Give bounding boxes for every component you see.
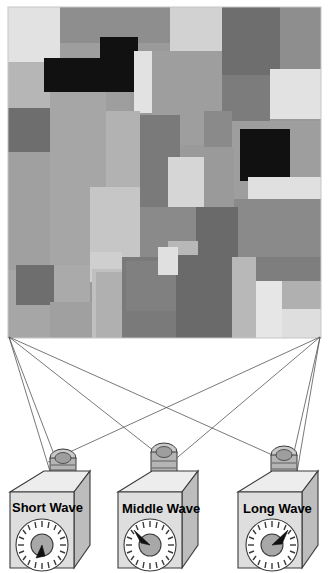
dial-middle-wave[interactable] bbox=[124, 519, 176, 571]
dial-long-wave[interactable] bbox=[246, 519, 298, 571]
beam-right-aux bbox=[296, 337, 320, 478]
beams-and-projectors-layer bbox=[0, 0, 329, 573]
projector-label-short-wave: Short Wave bbox=[12, 500, 83, 515]
beam-left-aux bbox=[9, 337, 52, 478]
dial-short-wave[interactable] bbox=[16, 519, 68, 571]
projector-label-long-wave: Long Wave bbox=[243, 501, 312, 516]
projector-label-middle-wave: Middle Wave bbox=[122, 501, 200, 516]
mondrian-projector-figure: Short Wave Middle Wave Long Wave bbox=[0, 0, 329, 573]
pattern-panel-border bbox=[8, 7, 321, 338]
